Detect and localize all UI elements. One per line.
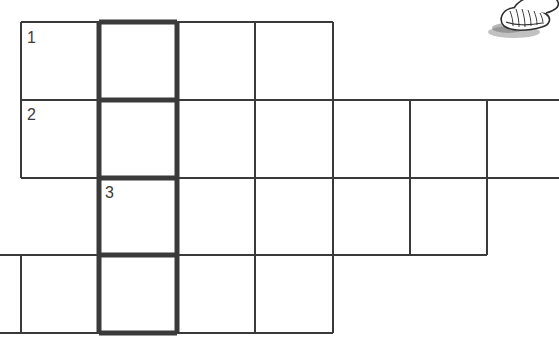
crossword-grid[interactable] xyxy=(0,0,559,337)
grid-row-4[interactable] xyxy=(0,255,333,333)
clue-number-3: 3 xyxy=(105,185,114,201)
grid-row-3[interactable] xyxy=(99,178,487,255)
hand-shell-illustration xyxy=(484,0,559,44)
grid-row-2[interactable] xyxy=(21,100,559,178)
clue-number-2: 2 xyxy=(27,107,36,123)
crossword-page: 1 2 3 xyxy=(0,0,559,337)
clue-number-1: 1 xyxy=(27,30,36,46)
bold-answer-column[interactable] xyxy=(99,22,177,333)
